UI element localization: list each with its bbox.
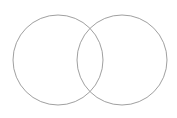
venn-diagram (0, 0, 177, 118)
right-circle (77, 15, 167, 105)
